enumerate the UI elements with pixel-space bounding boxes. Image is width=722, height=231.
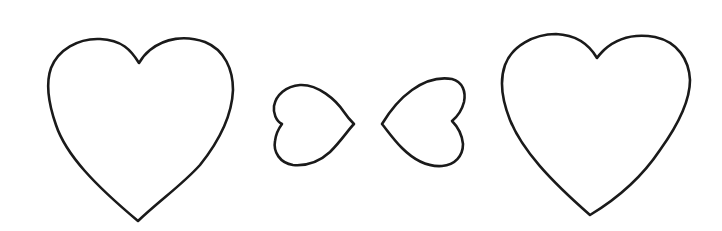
small-heart-pointing-left-icon (382, 78, 465, 166)
heart-drawing-canvas (0, 0, 722, 231)
large-heart-left-icon (48, 38, 233, 221)
large-heart-right-icon (502, 34, 690, 215)
small-heart-pointing-right-icon (274, 85, 354, 165)
hearts-svg (0, 0, 722, 231)
